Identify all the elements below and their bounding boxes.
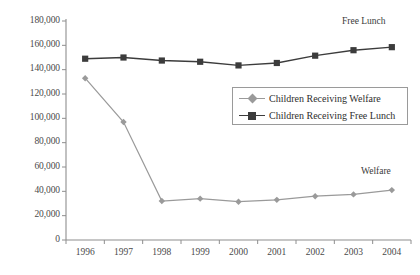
legend-label-free-lunch: Children Receiving Free Lunch xyxy=(269,110,395,121)
chart-legend: Children Receiving Welfare Children Rece… xyxy=(232,87,408,125)
x-tick-label: 1998 xyxy=(143,247,181,257)
x-tick-label: 2001 xyxy=(258,247,296,257)
series-free-lunch xyxy=(82,44,395,68)
y-tick-label: 180,000 xyxy=(6,15,60,25)
plot-area xyxy=(0,0,420,275)
legend-item-free-lunch[interactable]: Children Receiving Free Lunch xyxy=(239,107,395,124)
axes xyxy=(66,19,411,240)
y-tick-label: 60,000 xyxy=(6,161,60,171)
x-tick-label: 2004 xyxy=(373,247,411,257)
y-tick-label: 140,000 xyxy=(6,63,60,73)
x-axis-ticks xyxy=(66,240,411,244)
legend-marker-square-icon xyxy=(239,110,265,122)
x-tick-label: 1999 xyxy=(181,247,219,257)
legend-label-welfare: Children Receiving Welfare xyxy=(269,93,381,104)
y-tick-label: 80,000 xyxy=(6,136,60,146)
x-tick-label: 2002 xyxy=(296,247,334,257)
x-tick-label: 1997 xyxy=(104,247,142,257)
series-annotation-free-lunch: Free Lunch xyxy=(342,16,386,26)
y-axis-ticks xyxy=(62,21,66,240)
x-tick-label: 1996 xyxy=(66,247,104,257)
y-tick-label: 100,000 xyxy=(6,112,60,122)
y-tick-label: 40,000 xyxy=(6,185,60,195)
x-tick-label: 2003 xyxy=(334,247,372,257)
y-tick-label: 0 xyxy=(6,234,60,244)
legend-marker-diamond-icon xyxy=(239,93,265,105)
x-tick-label: 2000 xyxy=(219,247,257,257)
line-chart: 180,000160,000140,000120,000100,00080,00… xyxy=(0,0,420,275)
legend-item-welfare[interactable]: Children Receiving Welfare xyxy=(239,90,381,107)
y-tick-label: 120,000 xyxy=(6,88,60,98)
y-tick-label: 20,000 xyxy=(6,209,60,219)
y-tick-label: 160,000 xyxy=(6,39,60,49)
series-annotation-welfare: Welfare xyxy=(361,166,391,176)
